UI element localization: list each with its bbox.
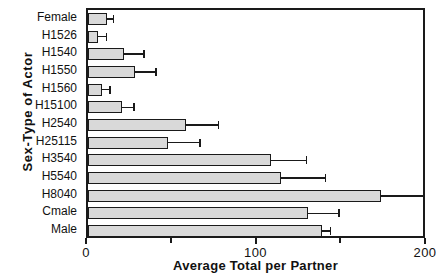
error-bar-line [271,160,307,162]
x-axis-title: Average Total per Partner [86,258,425,273]
error-bar-cap [330,227,332,235]
bar [88,66,135,78]
error-bar-line [281,177,325,179]
error-bar-cap [133,103,135,111]
error-bar-cap [113,15,115,23]
bar [88,154,271,166]
y-axis-tick-label: H1550 [42,64,77,76]
y-axis-tick-label: Female [37,11,77,23]
bar [88,31,98,43]
bar [88,119,186,131]
y-axis-tick-label: H1526 [42,29,77,41]
bar [88,225,322,237]
x-axis: 0100200 [86,238,425,239]
y-axis-tick-label: H1540 [42,46,77,58]
bar [88,101,122,113]
error-bar-line [308,213,339,215]
x-axis-minor-tick [170,238,172,243]
bar [88,84,102,96]
y-axis-tick-label: H1560 [42,82,77,94]
error-bar-cap [155,68,157,76]
error-bar-cap [199,139,201,147]
y-axis-tick-label: H2540 [42,117,77,129]
bar [88,190,381,202]
bar [88,13,107,25]
bar [88,48,124,60]
error-bar-cap [306,156,308,164]
bar [88,137,168,149]
error-bar-cap [218,121,220,129]
bars-container [88,10,423,236]
y-axis-tick-label: H8040 [42,188,77,200]
y-axis-tick-label: Male [51,223,77,235]
error-bar-cap [106,33,108,41]
error-bar-line [124,53,144,55]
error-bar-line [381,195,423,197]
x-axis-tick [424,238,426,244]
error-bar-line [135,71,155,73]
error-bar-line [186,124,218,126]
x-axis-tick [85,238,87,244]
y-axis-tick-label: H5540 [42,170,77,182]
error-bar-cap [325,174,327,182]
plot-area [86,8,425,238]
bar [88,172,281,184]
y-axis-tick-label: H15100 [35,99,77,111]
y-axis-tick-labels: FemaleH1526H1540H1550H1560H15100H2540H25… [2,8,81,238]
error-bar-cap [143,50,145,58]
bar [88,207,308,219]
y-axis-tick-label: Cmale [42,205,77,217]
error-bar-line [168,142,200,144]
x-axis-tick [255,238,257,244]
y-axis-tick-label: H25115 [36,135,77,147]
y-axis-tick-label: H3540 [42,152,77,164]
error-bar-cap [423,192,425,200]
x-axis-minor-tick [339,238,341,243]
error-bar-cap [338,209,340,217]
bar-chart-figure: Sex-Type of Actor FemaleH1526H1540H1550H… [0,0,436,278]
error-bar-cap [109,86,111,94]
